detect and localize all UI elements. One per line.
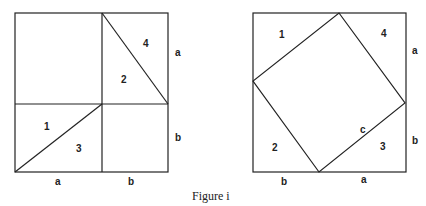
right-hypotenuse-label-c: c bbox=[360, 124, 366, 135]
left-top-diagonal bbox=[102, 13, 168, 104]
figure-caption: Figure i bbox=[192, 189, 230, 203]
right-region-1: 1 bbox=[279, 29, 285, 40]
left-bottom-diagonal bbox=[15, 104, 102, 172]
right-side-label-b: b bbox=[412, 135, 418, 146]
right-region-2: 2 bbox=[272, 142, 278, 153]
left-region-4: 4 bbox=[143, 38, 149, 49]
right-bottom-label-b: b bbox=[281, 176, 287, 187]
left-region-2: 2 bbox=[121, 74, 127, 85]
right-region-3: 3 bbox=[380, 141, 386, 152]
right-side-label-a: a bbox=[412, 45, 418, 56]
left-region-3: 3 bbox=[76, 143, 82, 154]
left-side-label-a: a bbox=[175, 47, 181, 58]
pythagorean-proof-diagram: 4 2 1 3 a b a b 1 4 2 3 c a b b a Figure… bbox=[0, 0, 426, 206]
left-bottom-label-a: a bbox=[55, 176, 61, 187]
right-region-4: 4 bbox=[381, 28, 387, 39]
left-side-label-b: b bbox=[175, 132, 181, 143]
left-bottom-label-b: b bbox=[128, 176, 134, 187]
left-outer-square bbox=[15, 13, 168, 172]
right-bottom-label-a: a bbox=[361, 174, 367, 185]
left-region-1: 1 bbox=[44, 121, 50, 132]
